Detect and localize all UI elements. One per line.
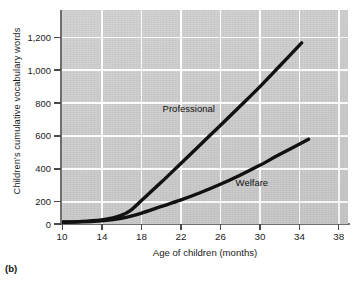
- x-tick-10: [62, 224, 63, 230]
- x-tick-18: [141, 224, 142, 230]
- y-axis-title: Children's cumulative vocabulary words: [12, 1, 22, 221]
- y-tick-label-400: 400: [35, 163, 51, 174]
- series-label-professional: Professional: [163, 103, 215, 114]
- x-tick-30: [259, 224, 260, 230]
- x-tick-label-22: 22: [166, 231, 196, 242]
- y-tick-label-800: 800: [35, 98, 51, 109]
- x-tick-22: [180, 224, 181, 230]
- x-tick-label-34: 34: [284, 231, 314, 242]
- x-tick-label-10: 10: [47, 231, 77, 242]
- series-label-welfare: Welfare: [236, 177, 269, 188]
- vocabulary-growth-chart: Children's cumulative vocabulary words P…: [0, 0, 357, 282]
- y-tick-800: [54, 102, 61, 103]
- x-tick-label-30: 30: [245, 231, 275, 242]
- figure-caption: (b): [5, 263, 17, 274]
- series-curves: [62, 10, 348, 224]
- x-tick-26: [220, 224, 221, 230]
- x-tick-14: [101, 224, 102, 230]
- x-tick-38: [338, 224, 339, 230]
- y-tick-label-1000: 1,000: [28, 65, 51, 76]
- y-tick-label-0: 0: [46, 219, 51, 230]
- y-tick-600: [54, 135, 61, 136]
- y-tick-label-200: 200: [35, 196, 51, 207]
- y-tick-0: [54, 223, 61, 224]
- y-tick-1000: [54, 69, 61, 70]
- y-tick-label-600: 600: [35, 130, 51, 141]
- series-line-welfare: [62, 139, 309, 222]
- x-tick-label-38: 38: [324, 231, 354, 242]
- x-tick-label-18: 18: [127, 231, 157, 242]
- x-axis-title: Age of children (months): [62, 247, 348, 258]
- y-tick-200: [54, 201, 61, 202]
- x-tick-label-26: 26: [206, 231, 236, 242]
- x-tick-label-14: 14: [87, 231, 117, 242]
- y-tick-label-1200: 1,200: [28, 32, 51, 43]
- x-tick-34: [299, 224, 300, 230]
- series-line-professional: [62, 43, 302, 222]
- y-tick-1200: [54, 37, 61, 38]
- y-tick-400: [54, 168, 61, 169]
- plot-area: Professional Welfare: [62, 10, 348, 224]
